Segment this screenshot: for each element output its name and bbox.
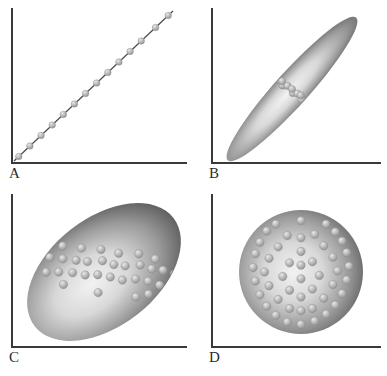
- panel-d-label: D: [209, 350, 220, 365]
- panel-c-scatter: [0, 188, 193, 376]
- panel-b-scatter: [193, 0, 387, 188]
- panel-c: C: [0, 188, 193, 376]
- panel-d: D: [193, 188, 387, 376]
- panel-c-plot-area: [0, 188, 193, 376]
- panel-b-plot-area: [193, 0, 387, 188]
- panel-a-label: A: [9, 166, 20, 181]
- panel-d-scatter: [193, 188, 387, 376]
- panel-b: B: [193, 0, 387, 188]
- panel-a-scatter: [0, 0, 193, 188]
- panel-a: A: [0, 0, 193, 188]
- panel-c-label: C: [9, 350, 19, 365]
- panel-d-plot-area: [193, 188, 387, 376]
- correlation-figure: A B C D: [0, 0, 387, 376]
- panel-b-label: B: [209, 166, 219, 181]
- panel-a-plot-area: [0, 0, 193, 188]
